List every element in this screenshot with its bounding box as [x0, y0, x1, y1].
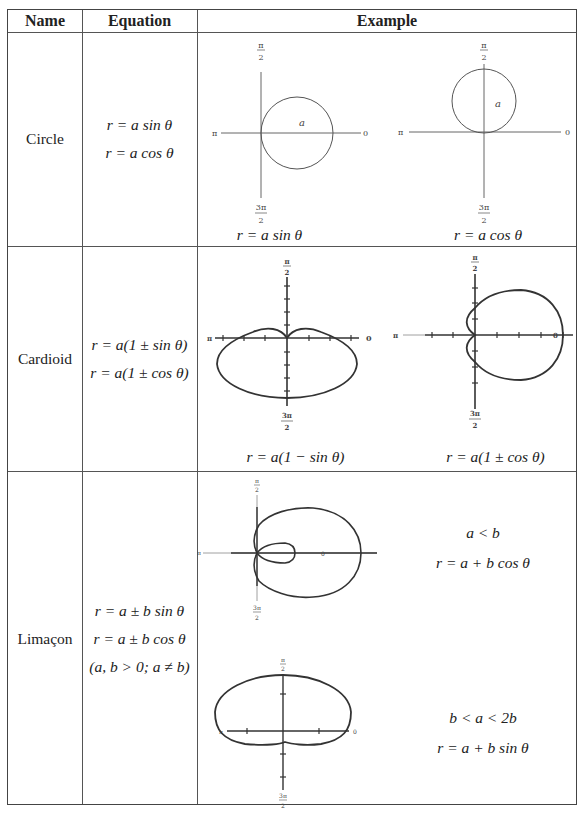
limacon-note-1: a < b r = a + b cos θ: [408, 518, 558, 578]
svg-text:3π: 3π: [479, 203, 489, 212]
svg-text:2: 2: [285, 423, 290, 432]
row-name-circle: Circle: [8, 32, 82, 246]
svg-text:2: 2: [473, 421, 478, 430]
svg-text:2: 2: [281, 665, 285, 672]
equation-cardioid-sin: r = a(1 ± sin θ): [92, 331, 188, 359]
svg-text:π: π: [393, 331, 398, 340]
svg-text:0: 0: [321, 550, 325, 557]
axis-label-pi-over-2: π: [258, 41, 263, 50]
equation-circle-cos: r = a cos θ: [105, 139, 173, 167]
svg-text:2: 2: [473, 264, 478, 273]
caption-cardioid-cos: r = a(1 ± cos θ): [428, 448, 563, 466]
svg-text:π: π: [207, 334, 212, 343]
equation-cardioid-cos: r = a(1 ± cos θ): [90, 359, 188, 387]
svg-text:0: 0: [565, 128, 570, 137]
svg-text:3π: 3π: [470, 409, 480, 418]
svg-text:π: π: [197, 549, 201, 556]
equations-limacon: r = a ± b sin θ r = a ± b cos θ (a, b > …: [82, 471, 197, 806]
svg-text:π: π: [481, 41, 486, 50]
equations-circle: r = a sin θ r = a cos θ: [82, 32, 197, 246]
svg-text:2: 2: [258, 216, 263, 225]
axis-label-pi: π: [212, 129, 217, 138]
axis-label-3pi-over-2: 3π: [256, 203, 266, 212]
svg-text:π: π: [255, 477, 259, 484]
svg-text:2: 2: [281, 802, 285, 809]
graph-circle-cos: π 2 π 0 a 3π 2: [393, 32, 578, 227]
svg-text:2: 2: [255, 614, 259, 621]
svg-text:3π: 3π: [279, 792, 287, 799]
svg-text:3π: 3π: [253, 604, 261, 611]
header-equation: Equation: [82, 10, 197, 32]
svg-text:2: 2: [481, 216, 486, 225]
condition-b-less-a-less-2b: b < a < 2b: [408, 703, 558, 733]
graph-circle-sin: π 2 π 0 a 3π 2: [197, 32, 387, 227]
row-name-cardioid: Cardioid: [8, 246, 82, 471]
svg-text:π: π: [398, 128, 403, 137]
header-name: Name: [8, 10, 82, 32]
svg-text:a: a: [495, 98, 501, 109]
caption-cardioid-sin: r = a(1 − sin θ): [233, 448, 358, 466]
svg-text:π: π: [281, 656, 285, 663]
svg-text:3π: 3π: [282, 411, 292, 420]
equation-limacon-sin: r = a ± b sin θ: [95, 597, 184, 625]
graph-limacon-dimpled: π 2 π 0 3π 2: [197, 650, 387, 810]
equation-limacon-sin-example: r = a + b sin θ: [408, 733, 558, 763]
limacon-note-2: b < a < 2b r = a + b sin θ: [408, 703, 558, 763]
condition-a-less-b: a < b: [408, 518, 558, 548]
svg-text:2: 2: [255, 486, 259, 493]
svg-text:0: 0: [366, 333, 372, 343]
caption-circle-sin: r = a sin θ: [207, 226, 332, 244]
header-example: Example: [197, 10, 577, 32]
svg-text:0: 0: [553, 331, 558, 340]
row-name-limacon: Limaçon: [8, 471, 82, 806]
equation-limacon-cos: r = a ± b cos θ: [93, 625, 185, 653]
graph-limacon-inner-loop: π 2 π 0 3π 2: [197, 471, 387, 631]
equation-circle-sin: r = a sin θ: [107, 111, 172, 139]
svg-text:2: 2: [481, 53, 486, 62]
polar-graphs-table: Name Equation Example Circle r = a sin θ…: [7, 9, 577, 805]
svg-text:0: 0: [353, 728, 357, 735]
radius-label-a: a: [299, 117, 305, 128]
equations-cardioid: r = a(1 ± sin θ) r = a(1 ± cos θ): [82, 246, 197, 471]
svg-text:2: 2: [258, 53, 263, 62]
caption-circle-cos: r = a cos θ: [418, 226, 558, 244]
graph-cardioid-right: π 2 π 0 3π 2: [393, 246, 578, 446]
equation-limacon-condition: (a, b > 0; a ≠ b): [89, 653, 189, 681]
graph-cardioid-down: π 2 π 0 3π 2: [197, 246, 387, 446]
axis-label-zero: 0: [363, 129, 368, 138]
equation-limacon-cos-example: r = a + b cos θ: [408, 548, 558, 578]
svg-text:π: π: [284, 257, 289, 266]
svg-text:2: 2: [285, 268, 290, 277]
svg-text:π: π: [472, 253, 477, 262]
